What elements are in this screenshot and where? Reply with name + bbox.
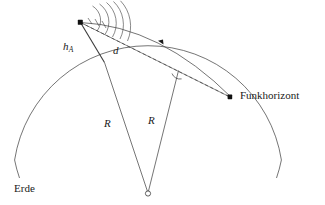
label-radius-left: R [104,118,111,129]
earth-arc [15,46,282,160]
label-antenna-height: hA [63,41,73,54]
earth-arc-left-tail [15,160,20,178]
label-earth: Erde [14,183,35,194]
funkhorizont-diagram: hA d R R Funkhorizont Erde [0,0,325,205]
radiation-waves-icon [93,1,131,41]
earth-arc-right-tail [277,160,282,178]
label-distance: d [113,45,119,56]
antenna-tip-marker [78,20,83,25]
diagram-canvas [0,0,325,205]
label-radio-horizon: Funkhorizont [240,90,299,101]
label-antenna-height-subscript: A [69,45,74,54]
earth-center-marker [145,191,150,196]
label-radius-right: R [148,115,155,126]
radius-left-line [105,63,149,194]
label-antenna-height-base: h [63,40,69,52]
radius-right-line [148,71,179,194]
radio-horizon-marker [228,95,233,100]
